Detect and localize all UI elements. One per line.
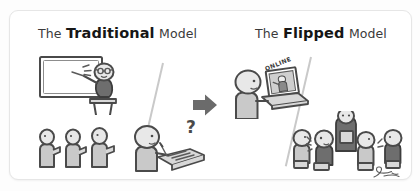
title-suffix: Model [159,26,197,41]
viewer-head [236,71,261,94]
traditional-model-title: The Traditional Model [38,25,197,41]
student-head [135,126,159,148]
student-figure [66,130,86,168]
teacher-lecturing-at-whiteboard [34,53,154,115]
title-prefix: The [38,26,62,41]
student-watching-online-lecture: ONLINE [232,57,324,119]
artist-signature [368,162,408,180]
flipped-model-title: The Flipped Model [255,25,387,41]
student-figure [40,130,60,168]
title-emphasis: Traditional [66,25,155,41]
title-prefix: The [255,26,279,41]
illustration-card: The Traditional Model The Flipped Model [9,10,412,180]
right-arrow-icon [192,93,218,117]
student-figure [294,130,311,168]
students-seated-in-row [34,123,130,169]
student-figure [92,128,114,167]
title-suffix: Model [349,26,387,41]
illustration-stage: The Traditional Model The Flipped Model [0,0,420,191]
tablet-icon [340,131,353,143]
title-emphasis: Flipped [283,25,345,41]
confused-student-doing-homework: ? [128,115,210,173]
question-mark-icon: ? [186,117,196,137]
teacher-figure [336,111,356,151]
